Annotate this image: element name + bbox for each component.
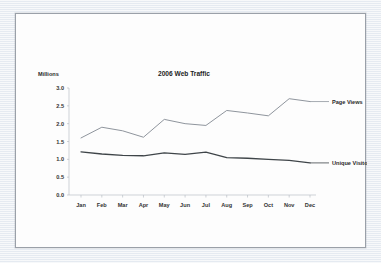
- y-axis-title: Millions: [38, 71, 59, 77]
- x-tick-label: Jun: [180, 202, 191, 208]
- y-tick-label: 0.0: [56, 192, 64, 198]
- y-tick-label: 1.0: [56, 156, 64, 162]
- x-tick-label: Sep: [242, 202, 253, 208]
- y-tick-label: 1.5: [56, 139, 64, 145]
- series-line-page-views: [81, 99, 310, 138]
- x-tick-label: Dec: [305, 202, 315, 208]
- series-line-unique-visitors: [81, 152, 310, 163]
- y-tick-label: 0.5: [56, 174, 64, 180]
- x-tick-label: Apr: [139, 202, 149, 208]
- line-chart: Millions 2006 Web Traffic 0.00.51.01.52.…: [16, 14, 367, 249]
- x-tick-label: Jan: [76, 202, 86, 208]
- chart-area: Millions 2006 Web Traffic 0.00.51.01.52.…: [16, 14, 365, 247]
- y-tick-label: 2.5: [56, 103, 64, 109]
- y-tick-label: 2.0: [56, 121, 64, 127]
- chart-title: 2006 Web Traffic: [158, 70, 210, 77]
- x-axis-ticks: JanFebMarAprMayJunJulAugSepOctNovDec: [76, 195, 315, 208]
- x-tick-label: Jul: [202, 202, 211, 208]
- x-tick-label: Aug: [221, 202, 232, 208]
- y-axis-ticks: 0.00.51.01.52.02.53.0: [56, 85, 69, 198]
- x-tick-label: May: [159, 202, 171, 208]
- chart-panel: Millions 2006 Web Traffic 0.00.51.01.52.…: [15, 13, 366, 248]
- y-tick-label: 3.0: [56, 85, 64, 91]
- series-label-page-views: Page Views: [332, 99, 363, 105]
- x-tick-label: Feb: [97, 202, 108, 208]
- series-label-unique-visitors: Unique Visitors: [332, 160, 367, 166]
- x-tick-label: Nov: [284, 202, 295, 208]
- x-tick-label: Mar: [118, 202, 129, 208]
- x-tick-label: Oct: [264, 202, 273, 208]
